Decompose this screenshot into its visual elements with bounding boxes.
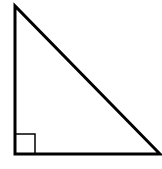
right-triangle-diagram xyxy=(0,0,162,169)
triangle-outline xyxy=(15,6,160,154)
right-angle-marker xyxy=(15,134,35,154)
